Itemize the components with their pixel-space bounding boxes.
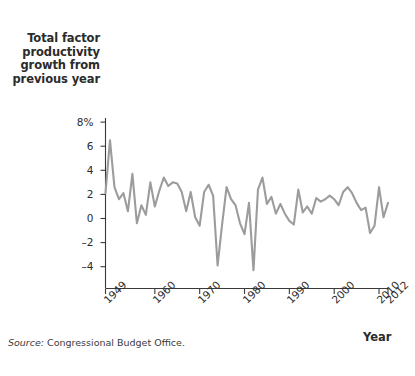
y-tick-label: 8% bbox=[64, 117, 94, 128]
y-tick-label: 0 bbox=[64, 213, 94, 224]
y-tick-label: –4 bbox=[64, 261, 94, 272]
y-tick-label: 6 bbox=[64, 141, 94, 152]
data-line-total-factor-productivity bbox=[106, 140, 389, 270]
y-tick-label: 2 bbox=[64, 189, 94, 200]
source-text: Congressional Budget Office. bbox=[47, 337, 185, 348]
chart-figure: Total factor productivity growth from pr… bbox=[0, 0, 415, 376]
plot-area bbox=[0, 0, 415, 376]
source-note: Source: Congressional Budget Office. bbox=[8, 337, 185, 348]
y-tick-label: –2 bbox=[64, 237, 94, 248]
y-tick-label: 4 bbox=[64, 165, 94, 176]
x-axis-title: Year bbox=[363, 330, 392, 344]
source-label: Source: bbox=[8, 337, 44, 348]
